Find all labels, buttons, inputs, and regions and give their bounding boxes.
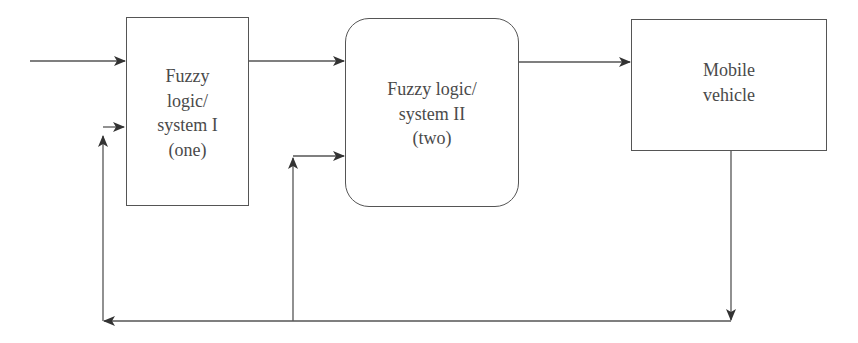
block-label-line: logic/ <box>167 89 208 114</box>
block-label-line: Mobile <box>703 58 755 83</box>
fuzzy-system-one-block: Fuzzy logic/ system I (one) <box>126 17 249 206</box>
block-label-line: vehicle <box>703 83 755 108</box>
block-label-line: Fuzzy logic/ <box>387 77 476 102</box>
block-label-line: system I <box>157 113 218 138</box>
fuzzy-system-two-block: Fuzzy logic/ system II (two) <box>345 18 519 207</box>
block-label-line: system II <box>399 102 466 127</box>
mobile-vehicle-block: Mobile vehicle <box>631 19 827 151</box>
block-label-line: (one) <box>169 138 207 163</box>
block-label-line: (two) <box>413 126 452 151</box>
block-label-line: Fuzzy <box>166 64 210 89</box>
